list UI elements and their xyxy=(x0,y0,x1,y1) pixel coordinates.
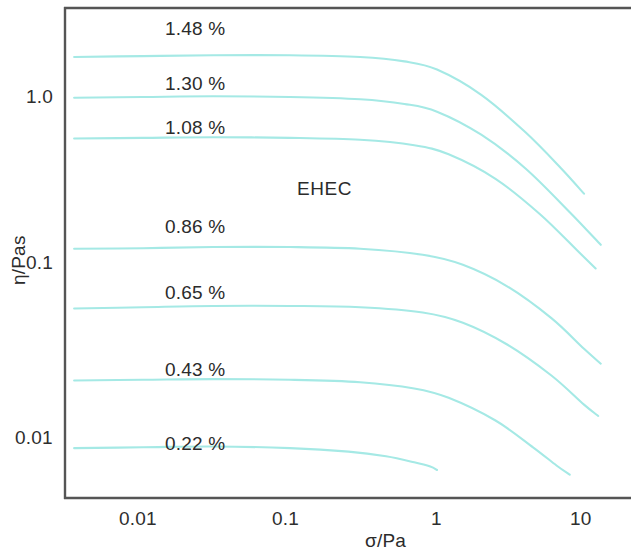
sample-annotation: EHEC xyxy=(297,178,352,200)
xtick-label-0.01: 0.01 xyxy=(119,508,157,530)
series-label-5: 0.65 % xyxy=(165,282,225,304)
series-label-1: 1.48 % xyxy=(165,18,225,40)
plot-area xyxy=(0,0,631,558)
series-label-3: 1.08 % xyxy=(165,117,225,139)
xtick-label-0.1: 0.1 xyxy=(272,508,299,530)
y-axis-title: η/Pas xyxy=(8,235,30,285)
curve-1.48 xyxy=(74,55,584,194)
curve-0.86 xyxy=(74,247,601,364)
xtick-label-10: 10 xyxy=(570,508,592,530)
curve-1.30 xyxy=(74,96,601,245)
data-curves xyxy=(74,55,601,475)
x-axis-title: σ/Pa xyxy=(365,530,406,552)
ytick-label-1: 1.0 xyxy=(26,86,53,108)
curve-0.43 xyxy=(74,379,570,475)
series-label-7: 0.22 % xyxy=(165,433,225,455)
curve-0.22 xyxy=(74,446,437,470)
ytick-label-0.1: 0.1 xyxy=(26,252,53,274)
series-label-4: 0.86 % xyxy=(165,216,225,238)
chart-figure: 1.0 0.1 0.01 0.01 0.1 1 10 σ/Pa η/Pas 1.… xyxy=(0,0,631,558)
curve-0.65 xyxy=(74,306,598,416)
series-label-2: 1.30 % xyxy=(165,73,225,95)
ytick-label-0.01: 0.01 xyxy=(15,427,53,449)
xtick-label-1: 1 xyxy=(431,508,442,530)
series-label-6: 0.43 % xyxy=(165,359,225,381)
